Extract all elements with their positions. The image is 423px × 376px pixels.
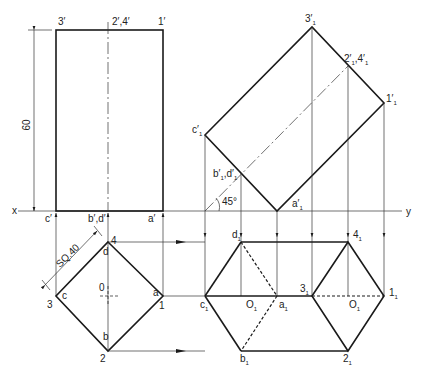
svg-text:1: 1 xyxy=(159,300,165,311)
svg-text:b′,d′: b′,d′ xyxy=(88,213,106,224)
svg-text:41: 41 xyxy=(353,229,363,242)
svg-text:3′1: 3′1 xyxy=(305,13,316,26)
svg-text:d1: d1 xyxy=(232,229,242,242)
y-label: y xyxy=(406,206,411,217)
svg-text:SQ.40: SQ.40 xyxy=(54,241,82,269)
svg-text:c′1: c′1 xyxy=(192,124,203,137)
svg-text:11: 11 xyxy=(389,287,399,300)
svg-text:2: 2 xyxy=(100,353,106,364)
aux-top-view: d1 c1 O1 a1 b1 31 41 11 O1 21 xyxy=(200,229,399,366)
x-label: x xyxy=(12,205,17,216)
svg-text:3: 3 xyxy=(47,299,53,310)
svg-text:b1: b1 xyxy=(240,353,250,366)
svg-text:c′: c′ xyxy=(45,213,52,224)
svg-text:45°: 45° xyxy=(222,196,237,207)
svg-text:2′,4′: 2′,4′ xyxy=(112,16,130,27)
svg-text:0: 0 xyxy=(99,282,105,293)
svg-text:b: b xyxy=(103,331,109,342)
svg-text:1′: 1′ xyxy=(158,16,166,27)
svg-text:3′: 3′ xyxy=(58,16,66,27)
svg-text:60: 60 xyxy=(21,119,32,131)
svg-text:a′1: a′1 xyxy=(292,198,303,211)
svg-text:a1: a1 xyxy=(279,299,289,312)
svg-text:4: 4 xyxy=(111,235,117,246)
svg-text:31: 31 xyxy=(300,283,310,296)
svg-text:a: a xyxy=(153,287,159,298)
front-view: 3′ 2′,4′ 1′ c′ b′,d′ a′ xyxy=(45,16,166,224)
svg-text:1′1: 1′1 xyxy=(386,93,397,106)
svg-text:a′: a′ xyxy=(148,213,156,224)
svg-text:c: c xyxy=(62,290,67,301)
svg-text:O1: O1 xyxy=(349,299,361,312)
svg-text:d: d xyxy=(103,246,109,257)
svg-text:O1: O1 xyxy=(246,299,258,312)
projectors-left xyxy=(56,213,163,351)
svg-text:b′1,d′1: b′1,d′1 xyxy=(213,168,238,181)
svg-text:21: 21 xyxy=(343,353,353,366)
projectors-down xyxy=(205,211,384,296)
projection-drawing: x y 3′ 2′,4′ 1′ c′ b′,d′ a′ 60 4 d 0 a 1… xyxy=(0,0,423,376)
aux-front-view: 45° 3′1 2′1,4′1 1′1 c′1 b′1,d′1 a′1 xyxy=(192,13,397,211)
height-dimension: 60 xyxy=(21,30,52,211)
